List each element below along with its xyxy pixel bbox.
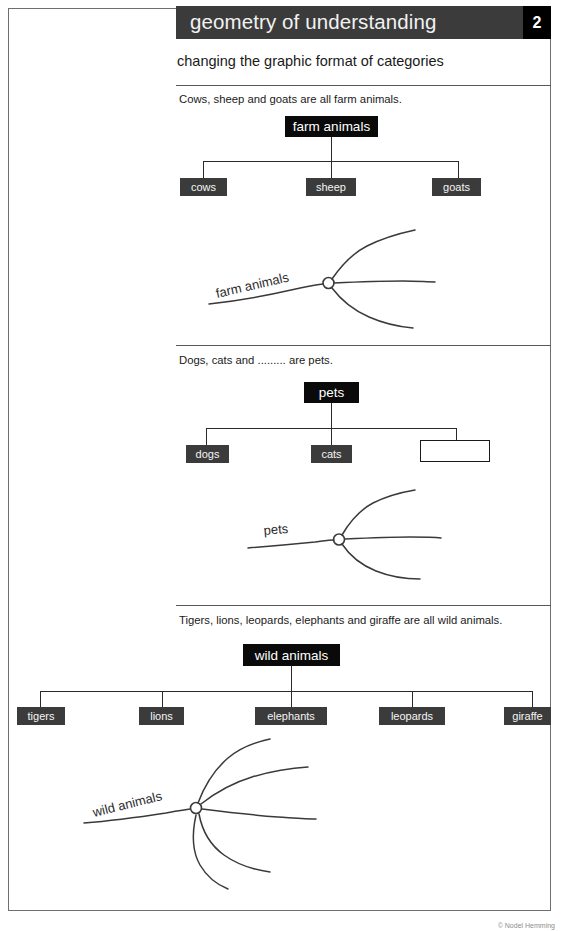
tree-node-tigers: tigers: [17, 707, 65, 725]
tree-connector-drop-3b: [162, 691, 163, 707]
section-divider-3: [176, 605, 551, 606]
tree-connector-drop-1c: [458, 161, 459, 178]
worksheet-page: geometry of understanding 2 changing the…: [0, 0, 561, 931]
chapter-number-box: 2: [523, 6, 551, 39]
section-divider-2: [176, 345, 551, 346]
sketch-label-pets: pets: [263, 521, 289, 538]
sketch-pets: pets: [245, 482, 450, 582]
tree-connector-drop-1b: [331, 161, 332, 178]
tree-connector-drop-3a: [40, 691, 41, 707]
prompt-pets: Dogs, cats and ......... are pets.: [179, 354, 333, 366]
tree-connector-bar-3: [40, 691, 532, 692]
tree-connector-stem-3: [291, 666, 292, 691]
tree-connector-drop-1a: [203, 161, 204, 178]
tree-node-sheep: sheep: [306, 178, 356, 196]
tree-node-cows: cows: [180, 178, 227, 196]
prompt-wild-animals: Tigers, lions, leopards, elephants and g…: [179, 614, 502, 626]
sketch-label-farm-animals: farm animals: [214, 269, 290, 300]
tree-node-blank-answer[interactable]: [420, 440, 490, 462]
tree-root-wild-animals: wild animals: [243, 644, 340, 666]
header-bar: geometry of understanding 2: [176, 6, 551, 39]
tree-node-dogs: dogs: [186, 445, 229, 463]
copyright-credit: © Nodel Hemming: [498, 922, 555, 931]
tree-connector-stem-2: [331, 403, 332, 428]
tree-root-pets: pets: [304, 382, 359, 403]
tree-node-goats: goats: [432, 178, 481, 196]
tree-node-lions: lions: [139, 707, 184, 725]
tree-connector-drop-3e: [532, 691, 533, 707]
sketch-wild-animals: wild animals: [80, 735, 400, 890]
tree-connector-drop-3d: [412, 691, 413, 707]
tree-node-giraffe: giraffe: [504, 707, 551, 725]
sketch-farm-animals: farm animals: [205, 220, 445, 335]
tree-node-elephants: elephants: [255, 707, 327, 725]
tree-connector-drop-2a: [206, 428, 207, 445]
chapter-number: 2: [523, 6, 551, 39]
tree-root-farm-animals: farm animals: [285, 116, 378, 137]
tree-node-cats: cats: [311, 445, 352, 463]
prompt-farm-animals: Cows, sheep and goats are all farm anima…: [179, 93, 402, 105]
tree-node-leopards: leopards: [379, 707, 445, 725]
tree-connector-stem-1: [331, 137, 332, 161]
tree-connector-drop-2b: [331, 428, 332, 445]
page-title: geometry of understanding: [190, 10, 436, 34]
tree-connector-drop-3c: [291, 691, 292, 707]
page-subtitle: changing the graphic format of categorie…: [177, 53, 444, 69]
section-divider-1: [176, 85, 551, 86]
